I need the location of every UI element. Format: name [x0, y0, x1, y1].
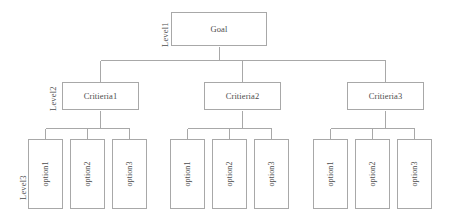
- node-criteria-1[interactable]: Critieria1: [62, 82, 139, 110]
- node-criteria-3-label: Critieria3: [369, 92, 403, 101]
- node-criteria2-option-3-label: option3: [268, 161, 276, 186]
- node-criteria-3[interactable]: Critieria3: [347, 82, 424, 110]
- node-criteria-1-label: Critieria1: [84, 92, 118, 101]
- node-criteria3-option-1[interactable]: option1: [313, 139, 348, 209]
- node-criteria3-option-3[interactable]: option3: [397, 139, 432, 209]
- node-criteria1-option-3-label: option3: [126, 161, 134, 186]
- level-label-3: Level3: [18, 175, 28, 200]
- node-criteria1-option-2[interactable]: option2: [70, 139, 105, 209]
- node-criteria1-option-1[interactable]: option1: [28, 139, 63, 209]
- node-criteria3-option-3-label: option3: [411, 161, 419, 186]
- hierarchy-diagram: Level1 Level2 Level3 Goal Critieria1 Cri…: [0, 0, 449, 222]
- node-criteria2-option-1-label: option1: [184, 161, 192, 186]
- node-criteria2-option-1[interactable]: option1: [170, 139, 205, 209]
- node-criteria1-option-3[interactable]: option3: [112, 139, 147, 209]
- node-criteria1-option-1-label: option1: [42, 161, 50, 186]
- node-goal[interactable]: Goal: [171, 12, 267, 46]
- node-criteria2-option-2-label: option2: [226, 161, 234, 186]
- node-criteria3-option-2-label: option2: [369, 161, 377, 186]
- node-criteria3-option-1-label: option1: [327, 161, 335, 186]
- node-criteria1-option-2-label: option2: [84, 161, 92, 186]
- node-criteria3-option-2[interactable]: option2: [355, 139, 390, 209]
- level-label-1: Level1: [160, 22, 170, 47]
- node-goal-label: Goal: [211, 25, 228, 34]
- node-criteria2-option-3[interactable]: option3: [254, 139, 289, 209]
- node-criteria-2-label: Critieria2: [226, 92, 260, 101]
- node-criteria-2[interactable]: Critieria2: [204, 82, 281, 110]
- node-criteria2-option-2[interactable]: option2: [212, 139, 247, 209]
- level-label-2: Level2: [48, 86, 58, 111]
